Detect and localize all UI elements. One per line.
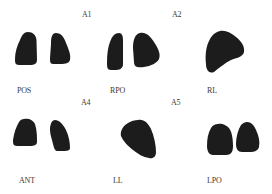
view-label-ll: LL <box>113 177 122 185</box>
panel-label-a5: A5 <box>171 99 180 107</box>
rl-lung <box>206 31 245 73</box>
panel-label-a4: A4 <box>81 99 90 107</box>
view-label-rl: RL <box>207 87 217 95</box>
pos-left-lung <box>15 32 37 65</box>
ant-left-lung <box>13 119 37 146</box>
view-label-lpo: LPO <box>207 177 222 185</box>
lpo-right-lung <box>236 122 259 152</box>
scan-images <box>0 0 272 194</box>
pos-right-lung <box>50 33 70 64</box>
view-label-pos: POS <box>17 87 31 95</box>
lung-scan-figure: A1 A2 A4 A5 POS RPO RL ANT LL LPO <box>0 0 272 194</box>
view-label-rpo: RPO <box>110 87 125 95</box>
rpo-left-lung <box>107 33 123 70</box>
view-label-ant: ANT <box>19 177 35 185</box>
panel-label-a1: A1 <box>82 11 91 19</box>
lpo-left-lung <box>207 124 233 155</box>
panel-label-a2: A2 <box>172 11 181 19</box>
ant-right-lung <box>50 120 70 151</box>
rpo-right-lung <box>133 33 160 68</box>
ll-lung <box>121 120 156 158</box>
